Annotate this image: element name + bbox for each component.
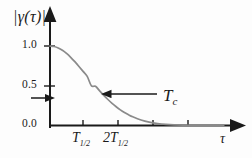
coherence-function-figure: |γ(τ)| 1.0 0.5 0.0 T1/2 2T1/2 τ Tc [0, 0, 252, 158]
x-tick-label-2t-half-main: 2T [103, 130, 118, 145]
y-axis-label: |γ(τ)| [13, 8, 46, 26]
x-tick-label-t-half: T1/2 [72, 130, 90, 148]
x-tick-label-2t-half-sub: 1/2 [118, 139, 128, 148]
coherence-time-label-sub: c [172, 95, 177, 107]
x-tick-label-t-half-sub: 1/2 [80, 139, 90, 148]
y-tick-label-0.0: 0.0 [22, 117, 37, 129]
coherence-decay-curve [50, 46, 224, 126]
x-tick-label-2t-half: 2T1/2 [103, 130, 128, 148]
y-tick-label-1.0: 1.0 [22, 38, 37, 50]
x-tick-label-t-half-main: T [72, 130, 80, 145]
y-tick-label-0.5: 0.5 [22, 78, 37, 90]
coherence-time-label: Tc [163, 86, 177, 107]
x-axis-label: τ [220, 131, 225, 147]
